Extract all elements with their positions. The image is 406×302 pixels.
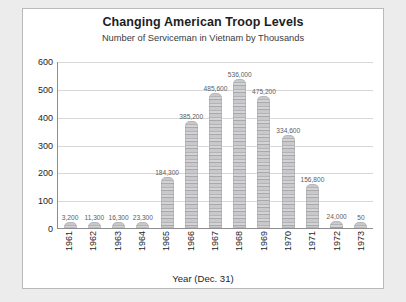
x-axis-tick-label: 1967: [210, 231, 220, 251]
y-axis-tick-label: 200: [38, 168, 53, 178]
x-label-slot: 1963: [106, 231, 130, 273]
bar[interactable]: 475,200: [257, 96, 270, 228]
y-axis-tick-label: 0: [48, 224, 53, 234]
x-axis-tick-label: 1970: [283, 231, 293, 251]
x-axis-tick-label: 1965: [161, 231, 171, 251]
x-axis-tick-label: 1963: [113, 231, 123, 251]
chart-subtitle: Number of Serviceman in Vietnam by Thous…: [23, 32, 383, 45]
bar-value-label: 156,800: [301, 176, 325, 183]
x-axis-tick-label: 1969: [259, 231, 269, 251]
bar[interactable]: 3,200: [64, 222, 77, 228]
x-label-slot: 1972: [324, 231, 348, 273]
bar-slot: 536,000: [228, 62, 252, 228]
bar-slot: 156,800: [300, 62, 324, 228]
bar-value-label: 3,200: [62, 214, 79, 221]
bar-slot: 11,300: [82, 62, 106, 228]
bar-slot: 184,300: [155, 62, 179, 228]
x-axis-tick-label: 1971: [307, 231, 317, 251]
chart-panel: Changing American Troop Levels Number of…: [22, 8, 384, 289]
bar[interactable]: 156,800: [306, 184, 319, 228]
x-axis-tick-labels: 1961196219631964196519661967196819691970…: [57, 231, 373, 273]
x-label-slot: 1968: [227, 231, 251, 273]
bar-slot: 385,200: [179, 62, 203, 228]
x-axis-tick-label: 1962: [88, 231, 98, 251]
bar-value-label: 16,300: [108, 214, 128, 221]
bar-slot: 50: [349, 62, 373, 228]
y-axis-tick-label: 500: [38, 85, 53, 95]
bar[interactable]: 50: [354, 222, 367, 228]
bar-value-label: 485,600: [204, 85, 228, 92]
x-label-slot: 1961: [57, 231, 81, 273]
x-axis-tick-label: 1973: [356, 231, 366, 251]
bar-series: 3,20011,30016,30023,300184,300385,200485…: [58, 62, 373, 228]
bar-value-label: 385,200: [179, 113, 203, 120]
x-label-slot: 1969: [252, 231, 276, 273]
bar-slot: 475,200: [252, 62, 276, 228]
y-axis-tick-label: 100: [38, 196, 53, 206]
x-label-slot: 1970: [276, 231, 300, 273]
plot-area: 0100200300400500600 3,20011,30016,30023,…: [57, 62, 373, 229]
title-block: Changing American Troop Levels Number of…: [23, 15, 383, 45]
x-label-slot: 1973: [349, 231, 373, 273]
bar[interactable]: 16,300: [112, 222, 125, 228]
bar[interactable]: 334,600: [282, 135, 295, 228]
y-axis-tick-label: 600: [38, 57, 53, 67]
x-label-slot: 1966: [179, 231, 203, 273]
bar[interactable]: 11,300: [88, 222, 101, 228]
bar[interactable]: 184,300: [161, 177, 174, 228]
bar-slot: 23,300: [131, 62, 155, 228]
x-axis-title: Year (Dec. 31): [23, 273, 383, 284]
bar[interactable]: 536,000: [233, 79, 246, 228]
x-axis-tick-label: 1968: [234, 231, 244, 251]
x-axis-tick-label: 1964: [137, 231, 147, 251]
bar[interactable]: 385,200: [185, 121, 198, 228]
bar-value-label: 475,200: [252, 88, 276, 95]
bar-value-label: 536,000: [228, 71, 252, 78]
x-label-slot: 1964: [130, 231, 154, 273]
bar-value-label: 50: [357, 214, 364, 221]
bar-value-label: 184,300: [155, 169, 179, 176]
x-axis-tick-label: 1972: [332, 231, 342, 251]
x-label-slot: 1967: [203, 231, 227, 273]
bar-value-label: 11,300: [85, 214, 105, 221]
y-axis-tick-label: 300: [38, 141, 53, 151]
y-axis-tick-label: 400: [38, 113, 53, 123]
bar[interactable]: 23,300: [136, 222, 149, 228]
bar[interactable]: 24,000: [330, 221, 343, 228]
bar-slot: 485,600: [203, 62, 227, 228]
chart-title: Changing American Troop Levels: [23, 15, 383, 30]
bar-value-label: 334,600: [276, 127, 300, 134]
bar-value-label: 24,000: [327, 213, 347, 220]
plot-wrapper: 0100200300400500600 3,20011,30016,30023,…: [57, 62, 373, 229]
bar[interactable]: 485,600: [209, 93, 222, 228]
x-label-slot: 1965: [154, 231, 178, 273]
bar-slot: 334,600: [276, 62, 300, 228]
bar-value-label: 23,300: [133, 214, 153, 221]
x-axis-tick-label: 1966: [186, 231, 196, 251]
bar-slot: 24,000: [325, 62, 349, 228]
x-label-slot: 1971: [300, 231, 324, 273]
x-axis-tick-label: 1961: [64, 231, 74, 251]
bar-slot: 3,200: [58, 62, 82, 228]
x-label-slot: 1962: [81, 231, 105, 273]
bar-slot: 16,300: [106, 62, 130, 228]
